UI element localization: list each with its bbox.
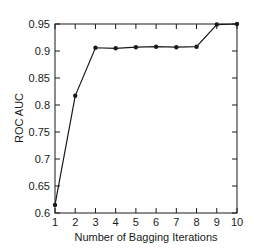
- plot-border: [55, 24, 237, 213]
- x-tick-label: 2: [72, 216, 78, 228]
- y-tick-label: 0.8: [35, 99, 50, 111]
- data-point-marker: [93, 46, 97, 50]
- x-tick-label: 1: [52, 216, 58, 228]
- data-point-marker: [73, 94, 77, 98]
- y-tick-label: 0.85: [29, 72, 50, 84]
- y-tick-label: 0.95: [29, 18, 50, 30]
- y-tick-label: 0.7: [35, 153, 50, 165]
- x-tick-label: 10: [231, 216, 243, 228]
- y-tick-label: 0.65: [29, 180, 50, 192]
- series-line: [55, 24, 237, 205]
- data-point-marker: [113, 46, 117, 50]
- data-point-marker: [194, 44, 198, 48]
- roc-auc-line-chart: 0.60.650.70.750.80.850.90.95 12345678910…: [0, 0, 254, 251]
- data-point-marker: [134, 45, 138, 49]
- y-axis-label: ROC AUC: [13, 93, 25, 143]
- x-tick-label: 4: [113, 216, 119, 228]
- y-tick-label: 0.6: [35, 207, 50, 219]
- y-tick-label: 0.9: [35, 45, 50, 57]
- data-series: [53, 22, 239, 207]
- x-axis-ticks: 12345678910: [52, 24, 243, 228]
- data-point-marker: [235, 22, 239, 26]
- x-tick-label: 5: [133, 216, 139, 228]
- y-tick-label: 0.75: [29, 126, 50, 138]
- data-point-marker: [53, 203, 57, 207]
- data-point-marker: [215, 22, 219, 26]
- x-tick-label: 8: [193, 216, 199, 228]
- data-point-marker: [174, 45, 178, 49]
- data-point-marker: [154, 44, 158, 48]
- x-axis-label: Number of Bagging Iterations: [74, 231, 218, 243]
- x-tick-label: 9: [214, 216, 220, 228]
- plot-frame: [55, 24, 237, 213]
- x-tick-label: 6: [153, 216, 159, 228]
- y-axis-ticks: 0.60.650.70.750.80.850.90.95: [29, 18, 237, 219]
- x-tick-label: 3: [92, 216, 98, 228]
- x-tick-label: 7: [173, 216, 179, 228]
